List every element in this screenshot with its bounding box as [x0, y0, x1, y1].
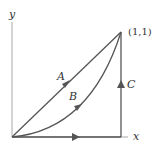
path-c-vertical-arrow-icon	[117, 80, 125, 88]
x-axis-label: x	[133, 130, 140, 143]
path-a-label: A	[56, 70, 65, 83]
path-c-label: C	[127, 78, 136, 91]
path-diagram: y x (1,1) A B C	[0, 0, 162, 150]
path-c-horizontal-arrow-icon	[72, 133, 80, 141]
point-label: (1,1)	[128, 26, 152, 37]
path-b-label: B	[68, 90, 77, 103]
y-axis-label: y	[8, 8, 16, 21]
